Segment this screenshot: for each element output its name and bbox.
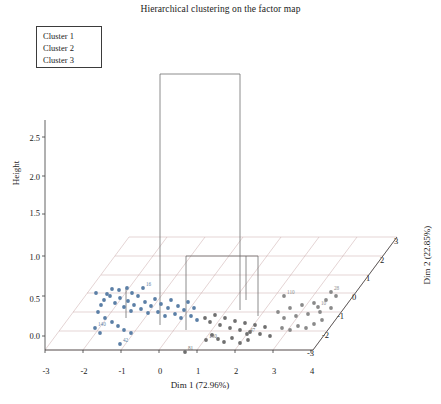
data-point-label: 140 <box>98 321 106 327</box>
data-point-label: 10 <box>321 300 327 306</box>
cluster-3-points: 1102810 <box>276 285 339 332</box>
data-point <box>117 288 121 292</box>
data-point <box>126 299 130 303</box>
data-point <box>173 312 177 316</box>
data-point <box>129 331 133 335</box>
data-point <box>268 334 272 338</box>
data-point <box>228 326 232 330</box>
data-point <box>98 331 102 335</box>
data-point <box>238 341 242 345</box>
data-point <box>159 302 163 306</box>
data-point <box>93 326 97 330</box>
data-point <box>258 332 262 336</box>
data-point <box>96 310 100 314</box>
data-point-label: 130 <box>209 333 217 339</box>
cluster-1-points: 1614042 <box>93 281 199 346</box>
data-point <box>263 325 267 329</box>
data-point <box>246 338 250 342</box>
data-point <box>329 290 333 294</box>
data-point <box>132 303 136 307</box>
data-point <box>192 306 196 310</box>
data-point <box>110 320 114 324</box>
data-point <box>245 332 249 336</box>
data-point <box>306 312 310 316</box>
data-point <box>195 318 199 322</box>
data-point <box>166 306 170 310</box>
data-point <box>276 310 280 314</box>
axis-tick-marks <box>42 137 311 353</box>
dendrogram-structure <box>126 74 258 330</box>
data-point-label: 47 <box>250 327 256 333</box>
plot-canvas: 1614042 8113047 1102810 <box>0 0 441 404</box>
data-point <box>136 294 140 298</box>
data-point <box>130 291 134 295</box>
data-point <box>238 328 242 332</box>
data-point-label: 42 <box>123 337 129 343</box>
data-point <box>169 298 173 302</box>
data-point <box>204 338 208 342</box>
data-point <box>143 300 147 304</box>
data-point <box>156 310 160 314</box>
data-point <box>218 323 222 327</box>
data-point <box>179 316 183 320</box>
data-point-label: 81 <box>188 345 194 351</box>
data-point <box>189 314 193 318</box>
data-point-label: 110 <box>287 289 295 295</box>
data-point <box>316 305 320 309</box>
data-point-label: 28 <box>334 285 340 291</box>
data-point <box>329 306 333 310</box>
data-point <box>110 287 114 291</box>
data-point <box>122 328 126 332</box>
data-point <box>163 314 167 318</box>
data-point <box>105 292 109 296</box>
data-point <box>99 303 103 307</box>
data-point <box>282 294 286 298</box>
data-point-label: 16 <box>146 281 152 287</box>
data-point <box>282 316 286 320</box>
data-point <box>116 324 120 328</box>
data-point <box>183 350 187 354</box>
data-point <box>312 322 316 326</box>
data-point <box>230 336 234 340</box>
data-point <box>153 297 157 301</box>
data-point <box>146 311 150 315</box>
data-point <box>288 328 292 332</box>
chart-root: Hierarchical clustering on the factor ma… <box>0 0 441 404</box>
data-point <box>94 291 98 295</box>
data-point <box>243 321 247 325</box>
data-point <box>149 304 153 308</box>
data-point <box>296 324 300 328</box>
data-point <box>320 318 324 322</box>
data-point <box>118 342 122 346</box>
data-point <box>118 296 122 300</box>
axes-frame <box>45 120 397 350</box>
data-point <box>312 301 316 305</box>
data-point <box>233 319 237 323</box>
data-point <box>304 326 308 330</box>
data-point <box>139 307 143 311</box>
data-point <box>213 313 217 317</box>
data-point <box>294 314 298 318</box>
data-point <box>222 340 226 344</box>
data-point <box>125 286 129 290</box>
data-point <box>203 316 207 320</box>
data-point <box>334 294 338 298</box>
data-point <box>208 320 212 324</box>
data-point <box>318 310 322 314</box>
data-point <box>129 309 133 313</box>
data-point <box>176 304 180 308</box>
data-point <box>186 300 190 304</box>
data-point <box>280 326 284 330</box>
data-point <box>223 316 227 320</box>
data-point <box>182 308 186 312</box>
data-point <box>113 301 117 305</box>
data-point <box>141 286 145 290</box>
data-point <box>122 305 126 309</box>
data-point <box>288 306 292 310</box>
data-point <box>102 298 106 302</box>
data-point <box>300 303 304 307</box>
data-point <box>103 316 107 320</box>
